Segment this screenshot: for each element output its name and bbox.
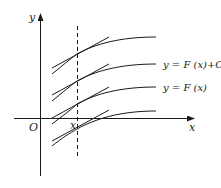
tangent-lower-middle (52, 87, 109, 118)
tangent-top (52, 37, 109, 68)
label-family-curve: y = F (x)+C (162, 59, 221, 70)
label-base-curve: y = F (x) (162, 82, 207, 93)
tangent-upper-middle (52, 64, 109, 95)
tangent-bottom (52, 110, 109, 141)
curve-bottom (52, 111, 156, 146)
x-axis-label: x (189, 121, 196, 134)
curve-upper-middle (52, 64, 156, 101)
x0-label: x (70, 119, 77, 132)
y-axis-label: y (28, 11, 36, 24)
curve-top (52, 37, 156, 74)
origin-label: O (29, 121, 38, 134)
antiderivative-family-diagram: y x O x y = F (x)+C y = F (x) (0, 0, 221, 188)
curve-family (52, 37, 156, 146)
